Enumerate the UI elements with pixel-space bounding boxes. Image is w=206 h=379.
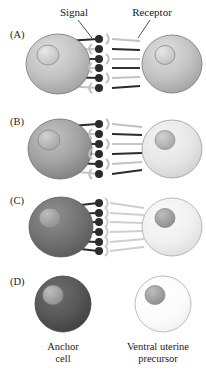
connector-line — [112, 77, 140, 78]
vu-precursor-body — [142, 35, 202, 93]
anchor-cell-nucleus — [38, 130, 60, 150]
signal-dot — [95, 218, 103, 226]
signal-dot — [95, 209, 103, 217]
anchor-cell-nucleus — [43, 285, 64, 305]
connector-line — [112, 153, 142, 154]
anchor-cell-label-line2: cell — [55, 353, 70, 364]
signal-dot — [95, 140, 103, 148]
anchor-cell-body — [35, 276, 91, 332]
signal-dot — [95, 74, 103, 82]
signal-dot — [95, 45, 103, 53]
anchor-cell-body — [28, 119, 92, 179]
signal-dot — [95, 238, 103, 246]
signal-dot — [95, 120, 103, 128]
panel-a-letter: (A) — [10, 29, 25, 41]
signal-dot — [95, 247, 103, 255]
panel-b-letter: (B) — [10, 116, 25, 128]
panel-c-letter: (C) — [10, 195, 25, 207]
panel-d-letter: (D) — [10, 276, 25, 288]
signal-dot — [95, 35, 103, 43]
anchor-cell-label-line1: Anchor — [47, 341, 79, 352]
signal-dot — [95, 64, 103, 72]
vu-precursor-body — [142, 120, 202, 178]
anchor-cell-body — [29, 197, 93, 257]
receptor-label: Receptor — [132, 6, 172, 18]
signal-dot — [95, 170, 103, 178]
vu-precursor-body — [142, 198, 202, 256]
vu-precursor-nucleus — [145, 286, 165, 305]
signal-dot — [95, 199, 103, 207]
anchor-cell-nucleus — [39, 208, 61, 228]
connector-line — [112, 49, 140, 50]
vu-precursor-body — [135, 276, 191, 332]
signal-dot — [95, 84, 103, 92]
connector-line — [112, 134, 142, 135]
signal-dot — [95, 130, 103, 138]
signal-dot — [95, 150, 103, 158]
connector-line — [110, 231, 144, 232]
signal-dot — [95, 160, 103, 168]
anchor-cell-body — [26, 34, 90, 94]
vu-precursor-nucleus — [155, 209, 175, 228]
connector-line — [110, 222, 144, 223]
signal-dot — [95, 228, 103, 236]
figure-canvas: Signal Receptor (A) — [0, 0, 206, 379]
anchor-cell-nucleus — [37, 45, 59, 65]
vu-precursor-nucleus — [155, 46, 175, 65]
vu-precursor-label-line2: precursor — [138, 353, 178, 364]
cell-signaling-figure: Signal Receptor (A) — [0, 0, 206, 379]
vu-precursor-nucleus — [155, 131, 175, 150]
signal-label: Signal — [60, 6, 88, 18]
vu-precursor-label-line1: Ventral uterine — [127, 341, 189, 352]
signal-dot — [95, 55, 103, 63]
